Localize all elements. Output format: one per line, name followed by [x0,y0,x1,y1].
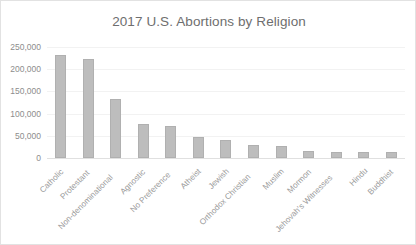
bar-slot [267,47,295,158]
y-axis-tick-label: 250,000 [1,42,41,52]
bar-slot [130,47,158,158]
x-label-slot: Non-denominational [102,159,130,245]
x-label-slot: No Preference [157,159,185,245]
bar-slot [295,47,323,158]
x-axis-tick-label: Hindu [347,166,369,188]
bar [193,137,204,158]
bar-slot [102,47,130,158]
bar [303,151,314,158]
bar-slot [377,47,405,158]
bar [138,124,149,158]
bar [83,59,94,158]
bar [248,145,259,158]
bar [276,146,287,158]
y-axis-tick-label: 100,000 [1,109,41,119]
chart-container: 2017 U.S. Abortions by Religion 050,0001… [0,0,416,245]
x-label-slot: Catholic [47,159,75,245]
bar [110,99,121,158]
plot-area [47,47,405,158]
bar-slot [185,47,213,158]
chart-title: 2017 U.S. Abortions by Religion [1,14,416,29]
bar [358,152,369,158]
bar-slot [322,47,350,158]
y-axis-tick-label: 150,000 [1,86,41,96]
x-label-slot: Jehovah's Witnesses [322,159,350,245]
bar-slot [212,47,240,158]
x-label-slot: Hindu [350,159,378,245]
bar [386,152,397,158]
bar-slot [157,47,185,158]
bar-series [47,47,405,158]
bar-slot [75,47,103,158]
y-axis-tick-label: 200,000 [1,64,41,74]
x-label-slot: Orthodox Christian [240,159,268,245]
bar [165,126,176,158]
x-axis-labels: CatholicProtestantNon-denominationalAgno… [47,159,405,245]
y-axis-tick-label: 0 [1,153,41,163]
bar-slot [350,47,378,158]
bar-slot [47,47,75,158]
bar-slot [240,47,268,158]
bar [55,55,66,158]
x-label-slot: Buddhist [377,159,405,245]
bar [220,140,231,158]
bar [331,152,342,158]
x-label-slot: Atheist [185,159,213,245]
y-axis-tick-label: 50,000 [1,131,41,141]
